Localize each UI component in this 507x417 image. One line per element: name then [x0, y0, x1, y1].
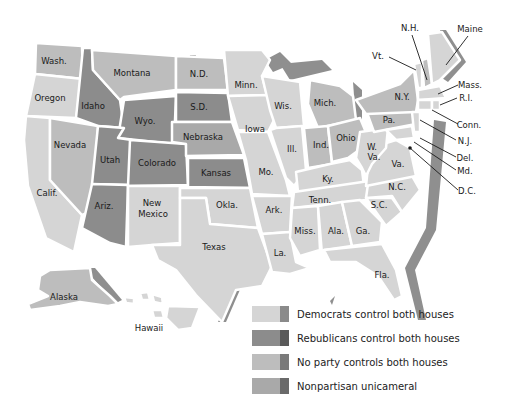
label-iowa: Iowa: [245, 124, 265, 134]
state-ri[interactable]: [432, 100, 440, 110]
legend-swatch-democrats: [252, 306, 289, 322]
label-w: W.: [367, 142, 377, 152]
label-wash: Wash.: [41, 56, 67, 66]
label-mich: Mich.: [314, 98, 336, 108]
state-conn[interactable]: [418, 100, 432, 110]
label-nevada: Nevada: [54, 140, 86, 150]
label-colorado: Colorado: [138, 158, 176, 168]
label-minn: Minn.: [234, 80, 257, 90]
label-wva: Va.: [367, 152, 380, 162]
label-maine: Maine: [457, 24, 483, 34]
label-ga: Ga.: [356, 226, 371, 236]
label-ohio: Ohio: [336, 133, 356, 143]
label-pa: Pa.: [383, 115, 396, 125]
label-idaho: Idaho: [81, 101, 105, 111]
label-fla: Fla.: [374, 270, 389, 280]
label-nh: N.H.: [401, 23, 419, 33]
legend-item-republicans: Rebublicans control both houses: [252, 330, 460, 346]
label-miss: Miss.: [294, 226, 315, 236]
legend-swatch-republicans: [252, 330, 289, 346]
label-nj: N.J.: [458, 136, 472, 146]
label-calif: Calif.: [37, 188, 58, 198]
label-vt: Vt.: [372, 51, 384, 61]
label-del: Del.: [457, 153, 474, 163]
label-montana: Montana: [113, 68, 150, 78]
state-mass[interactable]: [418, 86, 446, 100]
label-wis: Wis.: [274, 101, 292, 111]
legend-item-democrats: Democrats control both houses: [252, 306, 460, 322]
label-hawaii: Hawaii: [135, 323, 163, 333]
state-hawaii-molokai[interactable]: [152, 294, 163, 304]
label-ny: N.Y.: [394, 92, 409, 102]
label-conn: Conn.: [457, 120, 482, 130]
label-ky: Ky.: [322, 174, 333, 184]
label-oregon: Oregon: [34, 93, 65, 103]
label-ind: Ind.: [313, 140, 329, 150]
legend-swatch-no-party: [252, 354, 289, 370]
label-tenn: Tenn.: [308, 195, 331, 205]
label-ala: Ala.: [328, 226, 344, 236]
label-texas: Texas: [201, 242, 226, 252]
label-ariz: Ariz.: [95, 201, 114, 211]
label-sd: S.D.: [190, 102, 207, 112]
legend-label-democrats: Democrats control both houses: [297, 309, 454, 320]
label-ark: Ark.: [266, 205, 283, 215]
state-fla[interactable]: [324, 244, 402, 300]
label-mass: Mass.: [458, 80, 482, 90]
label-nebraska: Nebraska: [183, 132, 223, 142]
legend-label-republicans: Rebublicans control both houses: [297, 333, 460, 344]
state-hawaii-kauai[interactable]: [124, 297, 134, 304]
legend-swatch-nonpartisan: [252, 378, 289, 394]
label-sc: S.C.: [371, 200, 388, 210]
legend-item-no-party: No party controls both houses: [252, 354, 460, 370]
state-hawaii-big[interactable]: [166, 306, 200, 330]
label-md: Md.: [457, 166, 472, 176]
label-mo: Mo.: [258, 167, 273, 177]
states: [24, 32, 460, 330]
label-new: New: [143, 198, 162, 208]
label-ri: R.I.: [459, 93, 473, 103]
legend-label-no-party: No party controls both houses: [297, 357, 448, 368]
state-ariz[interactable]: [82, 184, 128, 247]
label-va: Va.: [391, 159, 404, 169]
label-dc: D.C.: [458, 186, 476, 196]
label-alaska: Alaska: [50, 292, 78, 302]
label-la: La.: [274, 248, 287, 258]
label-wyo: Wyo.: [134, 116, 155, 126]
legend-label-nonpartisan: Nonpartisan unicameral: [297, 381, 417, 392]
label-okla: Okla.: [216, 200, 238, 210]
label-nd: N.D.: [190, 69, 208, 79]
label-ill: Ill.: [287, 144, 297, 154]
state-maine[interactable]: [428, 32, 460, 84]
label-nc: N.C.: [388, 182, 406, 192]
state-hawaii-maui[interactable]: [152, 310, 164, 318]
legend-item-nonpartisan: Nonpartisan unicameral: [252, 378, 460, 394]
label-mexico: Mexico: [138, 209, 168, 219]
state-hawaii-oahu[interactable]: [140, 292, 150, 300]
label-utah: Utah: [100, 155, 120, 165]
state-md[interactable]: [386, 126, 414, 140]
legend: Democrats control both houses Rebublican…: [252, 306, 460, 402]
label-kansas: Kansas: [201, 168, 232, 178]
